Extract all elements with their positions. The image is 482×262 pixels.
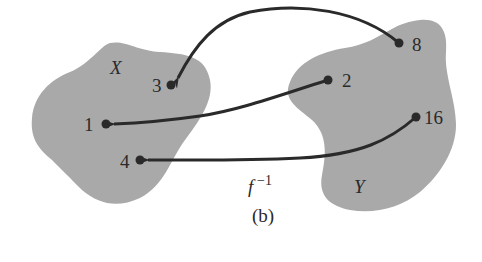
point-2 (324, 76, 333, 85)
element-label-1: 1 (84, 114, 94, 135)
element-label-16: 16 (424, 107, 443, 128)
point-8 (395, 39, 404, 48)
point-1 (102, 120, 111, 129)
set-x-label: X (109, 57, 123, 78)
element-label-4: 4 (120, 151, 130, 172)
inverse-function-diagram: X Y 3 1 4 8 2 16 f −1 (b) (0, 0, 482, 262)
element-label-2: 2 (342, 70, 352, 91)
point-4 (136, 156, 145, 165)
function-label: f (248, 176, 256, 197)
function-exponent: −1 (257, 173, 272, 188)
element-label-3: 3 (152, 75, 162, 96)
element-label-8: 8 (412, 34, 422, 55)
figure-caption: (b) (252, 205, 274, 227)
point-16 (412, 113, 421, 122)
point-3 (167, 81, 176, 90)
